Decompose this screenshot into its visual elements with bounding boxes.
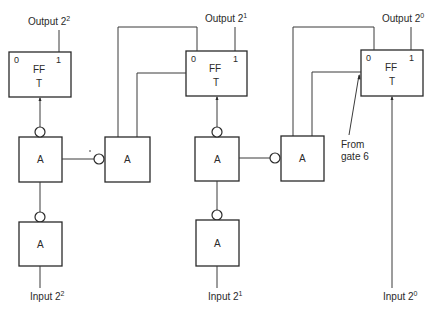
svg-text:1: 1 [56,55,61,65]
inverter-bubble [94,154,104,164]
input-label-2-2: Input 22 [30,290,65,302]
output-label-2-1: Output 21 [205,12,247,24]
svg-text:FF: FF [33,64,45,75]
dot-mark [89,150,91,152]
svg-text:A: A [214,154,221,165]
annotation-pointer [349,75,359,135]
svg-text:FF: FF [385,62,397,73]
feedback-wire-outer-2-1 [118,27,197,137]
svg-text:T: T [36,78,42,89]
inverter-bubble [212,127,222,137]
flipflop-2-0: 0 1 FF T [361,50,423,96]
inverter-bubble [35,127,45,137]
svg-text:T: T [389,76,395,87]
inverter-bubble [35,212,45,222]
inverter-bubble [270,153,280,163]
output-label-2-2: Output 22 [28,15,70,27]
svg-text:0: 0 [191,54,196,64]
inverter-bubble [212,210,222,220]
and-gate-upper-third: A [195,137,239,181]
flipflop-2-2: 0 1 FF T [9,52,71,97]
and-gate-upper-second: A [105,137,150,182]
svg-text:A: A [214,238,221,249]
annotation-from: From [341,139,364,150]
input-label-2-0: Input 20 [383,290,418,302]
svg-text:0: 0 [14,55,19,65]
output-label-2-0: Output 20 [382,12,424,24]
svg-text:A: A [299,153,306,164]
feedback-wire-inner-2-0 [312,72,361,136]
arrow-up-icon [358,74,361,80]
and-gate-upper-left: A [19,137,62,182]
feedback-wire-inner-2-1 [137,73,186,137]
flipflop-2-1: 0 1 FF T [186,51,247,96]
svg-text:0: 0 [366,53,371,63]
and-gate-upper-fourth: A [281,136,324,181]
svg-text:A: A [37,239,44,250]
svg-text:1: 1 [233,54,238,64]
svg-text:1: 1 [409,53,414,63]
svg-text:A: A [37,154,44,165]
svg-text:Output 20: Output 20 [382,12,424,24]
svg-text:T: T [213,77,219,88]
and-gate-lower-third: A [196,220,239,266]
svg-text:Output 21: Output 21 [205,12,247,24]
logic-circuit-diagram: Output 22 Output 21 Output 20 0 1 FF T 0… [0,0,434,309]
svg-text:Output 22: Output 22 [28,15,70,27]
and-gate-lower-left: A [19,222,62,266]
svg-text:A: A [124,154,131,165]
input-label-2-1: Input 21 [208,290,243,302]
annotation-gate-6: gate 6 [341,151,369,162]
svg-text:FF: FF [209,63,221,74]
